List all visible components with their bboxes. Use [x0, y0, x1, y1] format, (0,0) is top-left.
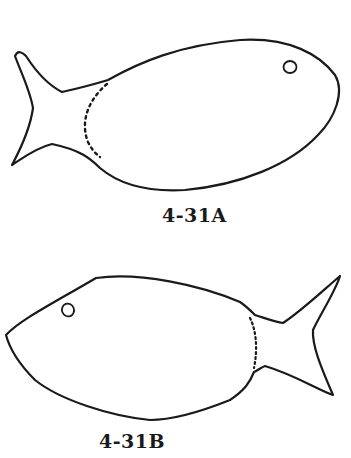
fish-b-eye-icon — [60, 302, 76, 318]
figure-label-b: 4-31B — [99, 430, 165, 452]
fish-a-eye-icon — [284, 61, 297, 73]
figure-label-a: 4-31A — [162, 204, 227, 226]
fish-b-outline-icon — [0, 230, 351, 430]
fish-a-outline-icon — [0, 0, 351, 200]
